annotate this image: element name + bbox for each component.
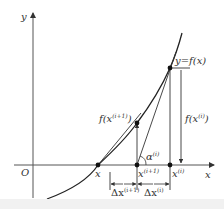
delta-x-i-label: Δx(i) — [144, 187, 163, 198]
root-label: x — [95, 169, 101, 179]
angle-label: α(i) — [146, 151, 159, 162]
y-axis-label: y — [21, 12, 27, 22]
point-f-x-i1 — [135, 121, 140, 126]
x-axis-label: x — [205, 170, 211, 180]
footer-strip — [0, 199, 224, 209]
curve-label: y=f(x) — [175, 56, 206, 66]
point-f-x-i — [168, 66, 173, 71]
origin-label: O — [21, 168, 29, 178]
x-i1-label: x(i+1) — [138, 168, 159, 179]
point-root — [96, 163, 101, 168]
diagram-canvas — [0, 0, 224, 209]
delta-x-i1-label: Δx(i+1) — [111, 187, 139, 198]
f-x-i1-label: f(x(i+1)) — [99, 113, 132, 124]
newton-method-diagram: y x O x y=f(x) f(x(i+1)) f(x(i)) α(i) x(… — [0, 0, 224, 209]
x-i-label: x(i) — [172, 168, 184, 179]
f-x-i-label: f(x(i)) — [185, 113, 209, 124]
point-x-i1 — [135, 163, 140, 168]
point-x-i — [168, 163, 173, 168]
